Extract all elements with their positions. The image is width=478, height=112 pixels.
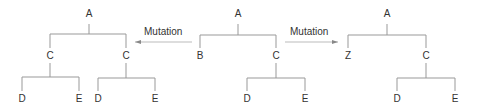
node-d: D bbox=[393, 94, 400, 104]
node-e: E bbox=[452, 94, 459, 104]
node-a: A bbox=[235, 9, 242, 19]
node-a: A bbox=[384, 9, 391, 19]
node-z: Z bbox=[345, 51, 351, 61]
node-e: E bbox=[302, 94, 309, 104]
node-c: C bbox=[272, 51, 279, 61]
node-d: D bbox=[94, 94, 101, 104]
node-b: B bbox=[197, 51, 204, 61]
node-e: E bbox=[76, 94, 83, 104]
node-a: A bbox=[86, 9, 93, 19]
node-c: C bbox=[122, 51, 129, 61]
mutation-label-right: Mutation bbox=[290, 27, 328, 37]
node-c: C bbox=[46, 51, 53, 61]
mutation-label-left: Mutation bbox=[144, 27, 182, 37]
node-e: E bbox=[152, 94, 159, 104]
node-d: D bbox=[243, 94, 250, 104]
arrow-right-icon bbox=[332, 40, 338, 44]
arrow-left-icon bbox=[135, 40, 141, 44]
node-d: D bbox=[18, 94, 25, 104]
node-c: C bbox=[422, 51, 429, 61]
